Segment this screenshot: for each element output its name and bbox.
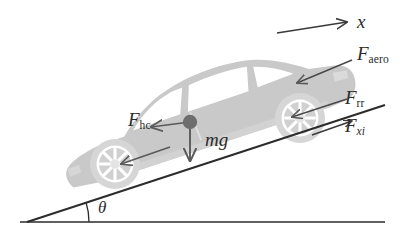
f-xi-subscript: xi: [357, 125, 366, 137]
f-xi-symbol: F: [345, 115, 357, 136]
theta-label: θ: [98, 199, 106, 216]
x-axis-label: x: [357, 12, 365, 31]
front-wheel: [275, 93, 325, 143]
f-rr-symbol: F: [345, 87, 357, 108]
mg-label: mg: [205, 130, 228, 149]
physics-diagram-figure: x Faero Frr Fxi Fhc mg θ: [0, 0, 417, 234]
centre-of-mass-dot: [183, 115, 197, 129]
f-aero-subscript: aero: [369, 53, 389, 65]
f-hc-label: Fhc: [128, 110, 151, 132]
f-hc-symbol: F: [128, 109, 140, 130]
f-aero-symbol: F: [357, 43, 369, 64]
x-axis-arrow[interactable]: [277, 22, 347, 33]
angle-arc: [86, 203, 89, 222]
f-hc-subscript: hc: [140, 119, 151, 131]
rear-wheel: [90, 139, 140, 189]
f-rr-subscript: rr: [357, 97, 365, 109]
f-aero-label: Faero: [357, 44, 389, 66]
f-rr-label: Frr: [345, 88, 364, 110]
f-xi-label: Fxi: [345, 116, 365, 138]
